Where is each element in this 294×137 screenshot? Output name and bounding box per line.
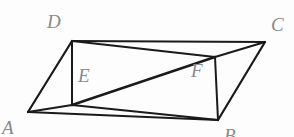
vertex-label-f: F xyxy=(191,61,203,80)
vertex-label-d: D xyxy=(47,12,61,31)
geometry-figure: D C E F A B xyxy=(0,0,294,137)
vertex-label-b: B xyxy=(224,126,236,137)
vertex-label-a: A xyxy=(2,118,14,137)
vertex-label-c: C xyxy=(271,15,284,34)
geometry-canvas xyxy=(0,0,294,137)
segment-DF xyxy=(72,41,215,57)
segment-AE xyxy=(28,105,72,112)
side-DC xyxy=(72,41,265,42)
vertex-label-e: E xyxy=(78,66,90,85)
side-AB xyxy=(28,112,218,120)
side-AD xyxy=(28,41,72,112)
segment-FB xyxy=(215,57,218,120)
segments-group xyxy=(28,41,265,120)
